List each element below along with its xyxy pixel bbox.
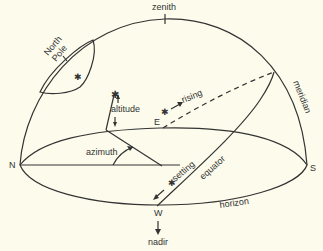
meridian-label: meridian xyxy=(291,79,313,115)
azimuth-label: azimuth xyxy=(86,147,118,157)
rising-label: rising xyxy=(180,88,204,105)
rising-arrow xyxy=(171,104,180,109)
altitude-label: altitude xyxy=(111,104,140,114)
north-label: N xyxy=(9,160,16,170)
equator-dashed xyxy=(163,72,274,128)
celestial-sphere-diagram: zenith ✱ altitude ✱ North Pole ✱ rising … xyxy=(0,0,323,251)
equator-label: equator xyxy=(198,154,227,182)
rising-star-icon: ✱ xyxy=(161,107,169,117)
arrow-down-icon xyxy=(113,122,117,127)
east-label: E xyxy=(154,117,160,127)
zenith-label: zenith xyxy=(152,2,176,12)
south-label: S xyxy=(310,163,316,173)
nadir-arrow-icon xyxy=(155,229,161,235)
setting-label: setting xyxy=(170,159,197,184)
horizon-ellipse xyxy=(20,128,307,205)
nadir-label: nadir xyxy=(148,237,168,247)
horizon-label: horizon xyxy=(219,196,250,210)
pole-star-icon: ✱ xyxy=(74,72,82,82)
west-label: W xyxy=(154,208,163,218)
